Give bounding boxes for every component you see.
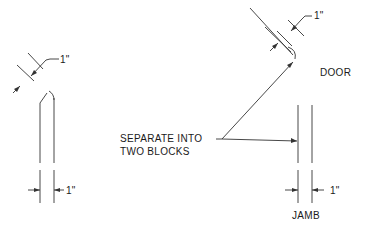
callout-text-line2: TWO BLOCKS [120, 146, 190, 157]
left-combined-block [13, 53, 64, 203]
door-block [250, 8, 312, 59]
arrowheads [14, 25, 318, 192]
door-label: DOOR [320, 67, 351, 78]
jamb-block [285, 105, 324, 203]
door-jamb-diagram: 1" 1" SEPARATE INTO TWO BLOCKS 1" DOOR 1… [0, 0, 368, 228]
jamb-dimension-label: 1" [330, 185, 340, 196]
left-bottom-dimension-label: 1" [66, 185, 76, 196]
diagram-linework [0, 0, 368, 228]
jamb-label: JAMB [292, 210, 320, 221]
callout-leaders [216, 62, 297, 141]
left-top-dimension-label: 1" [60, 54, 70, 65]
door-dimension-label: 1" [314, 10, 324, 21]
callout-text-line1: SEPARATE INTO [120, 133, 202, 144]
